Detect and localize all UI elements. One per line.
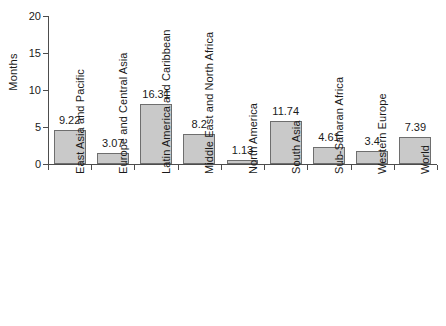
bar-value-label: 7.39 [405,121,426,133]
y-axis-tick-label: 5 [1,122,41,133]
x-axis-tick [307,165,308,170]
x-axis-category-label: Sub-Saharan Africa [333,77,345,174]
x-axis-tick [437,165,438,170]
x-axis-category-label: North America [247,103,259,174]
x-axis-tick [264,165,265,170]
x-axis-category-label: Europe and Central Asia [117,52,129,174]
x-axis-tick [394,165,395,170]
y-axis-tick [43,127,48,128]
x-axis-tick [221,165,222,170]
y-axis-tick [43,53,48,54]
x-axis-category-label: South Asia [290,120,302,174]
y-axis-tick-label: 20 [1,11,41,22]
x-axis-category-label: World [419,145,431,174]
y-axis-tick-label: 0 [1,159,41,170]
x-axis-tick [48,165,49,170]
x-axis-tick [351,165,352,170]
x-axis-category-label: East Asia and Pacific [74,69,86,174]
x-axis-category-label: Latin America and Caribbean [160,29,172,174]
bar-chart: Months 05101520 9.223.0716.318.21.1311.7… [0,0,446,326]
x-axis-tick [91,165,92,170]
y-axis-line [48,16,49,165]
bar-value-label: 11.74 [272,105,299,117]
y-axis-tick [43,16,48,17]
x-axis-category-label: Middle East and North Africa [203,32,215,174]
x-axis-category-label: Western Europe [376,93,388,174]
y-axis-tick [43,90,48,91]
y-axis-tick-label: 15 [1,48,41,59]
x-axis-tick [178,165,179,170]
y-axis-tick-label: 10 [1,85,41,96]
x-axis-tick [134,165,135,170]
